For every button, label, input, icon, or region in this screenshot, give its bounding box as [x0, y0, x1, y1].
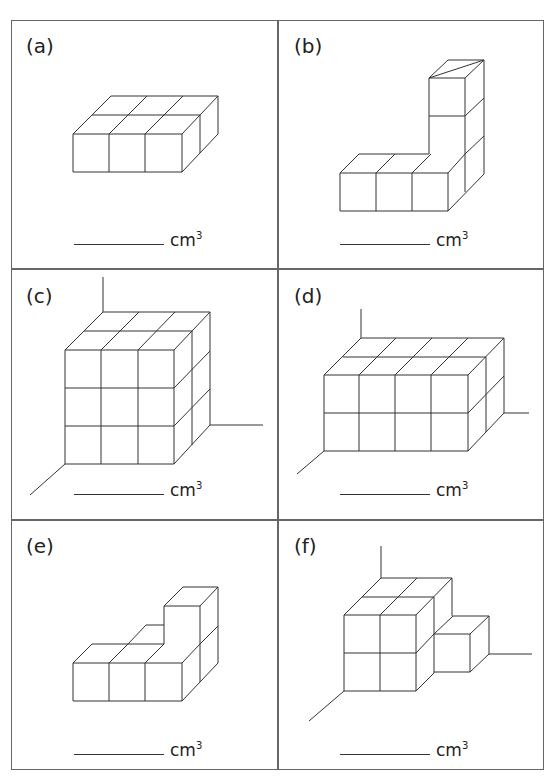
cube-figure-f [0, 0, 555, 784]
unit-label: cm3 [436, 740, 468, 760]
answer-field-f[interactable]: cm3 [340, 740, 468, 760]
answer-blank[interactable] [340, 753, 430, 755]
